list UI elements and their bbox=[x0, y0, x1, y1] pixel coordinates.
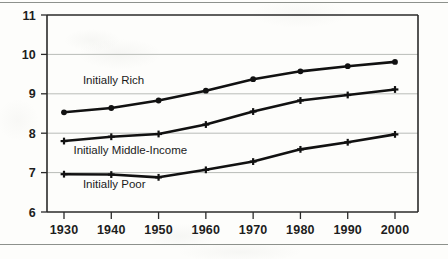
series-annotation-initially-poor: Initially Poor bbox=[83, 178, 146, 190]
x-tick-label-1950: 1950 bbox=[144, 223, 173, 237]
data-point-marker bbox=[203, 88, 209, 94]
x-tick-label-1960: 1960 bbox=[192, 223, 221, 237]
x-tick-label-1980: 1980 bbox=[286, 223, 315, 237]
data-point-marker bbox=[345, 63, 351, 69]
x-tick-label-2000: 2000 bbox=[381, 223, 410, 237]
y-tick-label-9: 9 bbox=[29, 87, 36, 101]
x-tick-label-1940: 1940 bbox=[97, 223, 126, 237]
series-annotation-initially-rich: Initially Rich bbox=[83, 74, 144, 86]
data-point-marker bbox=[392, 59, 398, 65]
y-tick-marks bbox=[41, 15, 47, 212]
x-tick-label-1970: 1970 bbox=[239, 223, 268, 237]
data-point-marker bbox=[298, 68, 304, 74]
chart-figure: 67891011 1930194019501960197019801990200… bbox=[0, 0, 448, 259]
x-tick-labels: 19301940195019601970198019902000 bbox=[50, 223, 410, 237]
series-line bbox=[64, 62, 395, 112]
y-tick-label-10: 10 bbox=[22, 48, 36, 62]
data-point-marker bbox=[250, 76, 256, 82]
y-tick-label-7: 7 bbox=[29, 166, 36, 180]
data-point-marker bbox=[156, 98, 162, 104]
series-annotation-initially-middle-income: Initially Middle-Income bbox=[73, 144, 187, 156]
series-initially-middle-income bbox=[61, 86, 399, 144]
x-tick-label-1930: 1930 bbox=[50, 223, 79, 237]
y-tick-label-8: 8 bbox=[29, 127, 36, 141]
data-point-marker bbox=[61, 109, 67, 115]
series-initially-rich bbox=[61, 59, 398, 115]
x-tick-marks bbox=[64, 212, 395, 219]
y-tick-labels: 67891011 bbox=[22, 9, 36, 220]
y-tick-label-6: 6 bbox=[29, 206, 36, 220]
y-tick-label-11: 11 bbox=[22, 9, 36, 23]
x-tick-label-1990: 1990 bbox=[333, 223, 362, 237]
line-chart-plot: 67891011 1930194019501960197019801990200… bbox=[0, 0, 448, 259]
data-point-marker bbox=[108, 105, 114, 111]
